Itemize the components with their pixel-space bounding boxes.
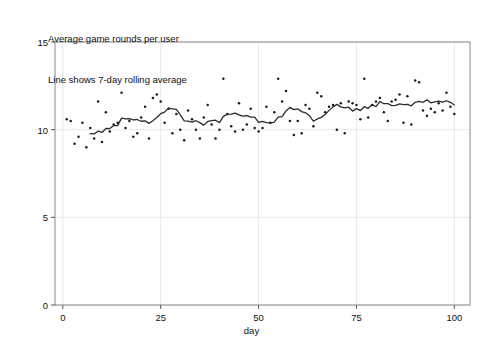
x-tick-label: 25 (155, 312, 166, 323)
x-tick-label: 50 (253, 312, 264, 323)
chart-title: Average game rounds per user (48, 32, 187, 46)
y-tick-label: 15 (20, 37, 48, 48)
x-tick-label: 100 (446, 312, 462, 323)
x-tick-label: 0 (60, 312, 65, 323)
chart-figure: Average game rounds per user Line shows … (0, 0, 503, 347)
x-tick-label: 75 (351, 312, 362, 323)
x-axis-title: day (0, 325, 503, 336)
chart-subtitle: Line shows 7-day rolling average (48, 73, 187, 87)
y-tick-label: 10 (20, 124, 48, 135)
y-tick-label: 5 (20, 212, 48, 223)
chart-caption: Average game rounds per user Line shows … (48, 5, 187, 113)
y-tick-label: 0 (20, 300, 48, 311)
